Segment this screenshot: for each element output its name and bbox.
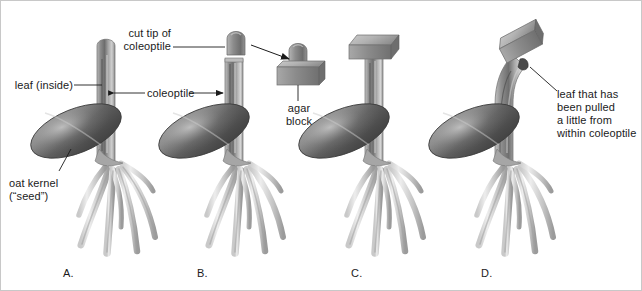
panel-d-artwork bbox=[421, 19, 553, 253]
panel-a-roots bbox=[79, 163, 155, 253]
panel-b-roots bbox=[207, 163, 283, 253]
panel-letter-a: A. bbox=[63, 267, 74, 279]
leader-pulled-leaf bbox=[530, 67, 557, 91]
panel-b-cut-tip bbox=[227, 32, 245, 56]
label-coleoptile: coleoptile bbox=[147, 87, 191, 100]
label-pulled-leaf-line1: leaf that has bbox=[557, 88, 618, 101]
label-leaf-inside: leaf (inside) bbox=[5, 79, 73, 92]
panel-d-agar-block bbox=[495, 19, 547, 63]
panel-c-agar-front bbox=[349, 45, 391, 59]
figure-oat-coleoptile-experiment: leaf (inside) oat kernel (“seed”) coleop… bbox=[0, 0, 642, 291]
panel-letter-b: B. bbox=[197, 267, 208, 279]
label-oat-kernel-line1: oat kernel bbox=[9, 177, 58, 190]
panel-c-agar-block bbox=[349, 35, 399, 59]
panel-letter-d: D. bbox=[481, 267, 492, 279]
agar-block-top bbox=[277, 61, 325, 67]
panel-letter-c: C. bbox=[351, 267, 362, 279]
label-agar-block-line1: agar bbox=[276, 102, 322, 115]
label-pulled-leaf-line4: within coleoptile bbox=[557, 127, 636, 140]
panel-a-artwork bbox=[23, 39, 155, 253]
label-cut-tip-line1: cut tip of bbox=[97, 27, 171, 40]
arrow-tip-to-agar bbox=[251, 45, 289, 59]
label-pulled-leaf-line3: a little from bbox=[557, 114, 612, 127]
panel-d-roots bbox=[477, 163, 553, 253]
panel-c-agar-top bbox=[349, 35, 399, 45]
panel-c-roots bbox=[347, 163, 423, 253]
label-agar-block-line2: block bbox=[276, 115, 322, 128]
label-oat-kernel-line2: (“seed”) bbox=[9, 190, 48, 203]
label-cut-tip-line2: coleoptile bbox=[97, 40, 171, 53]
agar-block-assembly bbox=[277, 44, 325, 86]
panel-d-protruding-leaf bbox=[518, 58, 528, 70]
label-pulled-leaf-line2: been pulled bbox=[557, 101, 615, 114]
panel-b-cut-surface bbox=[225, 58, 243, 62]
agar-block-front bbox=[277, 67, 319, 85]
